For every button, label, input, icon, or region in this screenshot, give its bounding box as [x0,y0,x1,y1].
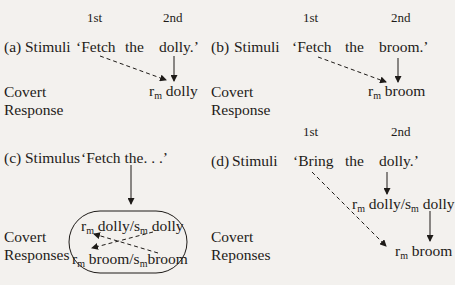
stimulus-word: ‘Bring [293,153,333,169]
stimulus-label: Stimuli [25,39,71,55]
arrow-a-dashed [100,56,166,80]
response-label: Covert Reponses [211,228,270,264]
response-label: Covert Response [4,83,63,119]
panel-label: (d) [211,153,229,169]
covert-response: rm broom [368,83,425,101]
covert-response: rm broom [395,243,452,261]
order-1st: 1st [303,125,318,138]
stimulus-word: dolly.’ [159,39,199,55]
stimulus-label: Stimuli [234,39,280,55]
order-2nd: 2nd [163,11,183,24]
covert-response: rm dolly/sm dolly [352,196,455,214]
stimulus-label: Stimuli [232,153,278,169]
stimulus-word: ‘Fetch [292,39,332,55]
stimulus-label: Stimulus [25,150,80,166]
order-2nd: 2nd [391,125,411,138]
panel-label: (c) [4,150,21,166]
stimulus-word: ‘Fetch [76,39,116,55]
stimulus-word: the [345,39,364,55]
order-2nd: 2nd [391,11,411,24]
covert-response: rm broom/smbroom [72,251,188,269]
stimulus-phrase: ‘Fetch the. . .’ [81,150,168,166]
covert-response: rm dolly/sm dolly [81,218,184,236]
response-label: Covert Response [211,83,270,119]
order-1st: 1st [87,11,102,24]
panel-label: (b) [211,39,229,55]
order-1st: 1st [303,11,318,24]
response-label: Covert Responses [4,228,69,264]
stimulus-word: the [345,153,364,169]
panel-label: (a) [4,39,21,55]
stimulus-word: broom.’ [379,39,429,55]
arrow-b-dashed [318,57,386,82]
stimulus-word: dolly.’ [379,153,419,169]
covert-response: rm dolly [149,83,198,101]
stimulus-word: the [125,39,144,55]
